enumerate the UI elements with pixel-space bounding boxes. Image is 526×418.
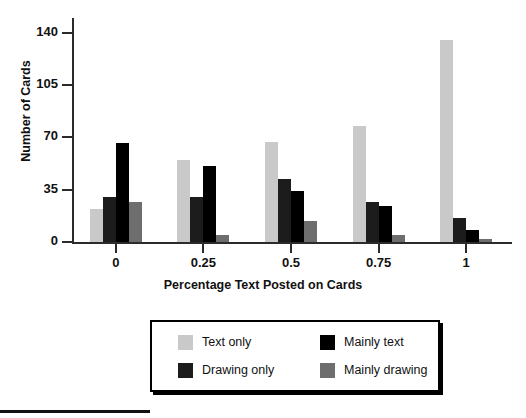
bar (479, 239, 492, 242)
y-tick (62, 84, 72, 86)
bar (440, 40, 453, 242)
bar (353, 126, 366, 242)
y-tick (62, 32, 72, 34)
bar (265, 142, 278, 242)
x-tick (290, 244, 292, 253)
bar (129, 202, 142, 242)
x-tick-label: 0.25 (173, 255, 233, 270)
bar (278, 179, 291, 242)
legend-item: Text only (178, 335, 320, 350)
legend-swatch-icon (178, 363, 193, 378)
legend-label: Drawing only (202, 363, 274, 377)
bar (392, 235, 405, 242)
x-axis-line (72, 242, 512, 244)
x-tick (202, 244, 204, 253)
x-tick-label: 0.75 (349, 255, 409, 270)
bar (103, 197, 116, 242)
legend-swatch-icon (320, 335, 335, 350)
plot-area (72, 18, 510, 242)
y-tick-label: 0 (18, 233, 58, 248)
bar (190, 197, 203, 242)
y-tick (62, 189, 72, 191)
footer-rule (0, 410, 150, 413)
y-axis-title: Number of Cards (19, 31, 33, 191)
legend-item: Mainly text (320, 335, 468, 350)
y-tick (62, 241, 72, 243)
legend-label: Mainly text (344, 335, 404, 349)
x-tick (378, 244, 380, 253)
bar (90, 209, 103, 242)
chart-legend: Text onlyMainly textDrawing onlyMainly d… (150, 320, 440, 392)
x-axis-title: Percentage Text Posted on Cards (0, 278, 526, 292)
y-tick (62, 136, 72, 138)
bar-chart: 03570105140 00.250.50.751 Percentage Tex… (0, 0, 526, 418)
bar (216, 235, 229, 242)
bar (304, 221, 317, 242)
bar (203, 166, 216, 242)
legend-item: Mainly drawing (320, 363, 468, 378)
bar (116, 143, 129, 242)
bar (177, 160, 190, 242)
bar (379, 206, 392, 242)
legend-label: Mainly drawing (344, 363, 427, 377)
bar (291, 191, 304, 242)
x-tick (115, 244, 117, 253)
legend-swatch-icon (320, 363, 335, 378)
x-tick (465, 244, 467, 253)
legend-item: Drawing only (178, 363, 320, 378)
bar (366, 202, 379, 242)
bar (453, 218, 466, 242)
x-tick-label: 0.5 (261, 255, 321, 270)
legend-label: Text only (202, 335, 251, 349)
x-tick-label: 1 (436, 255, 496, 270)
legend-swatch-icon (178, 335, 193, 350)
x-tick-label: 0 (86, 255, 146, 270)
bar (466, 230, 479, 242)
